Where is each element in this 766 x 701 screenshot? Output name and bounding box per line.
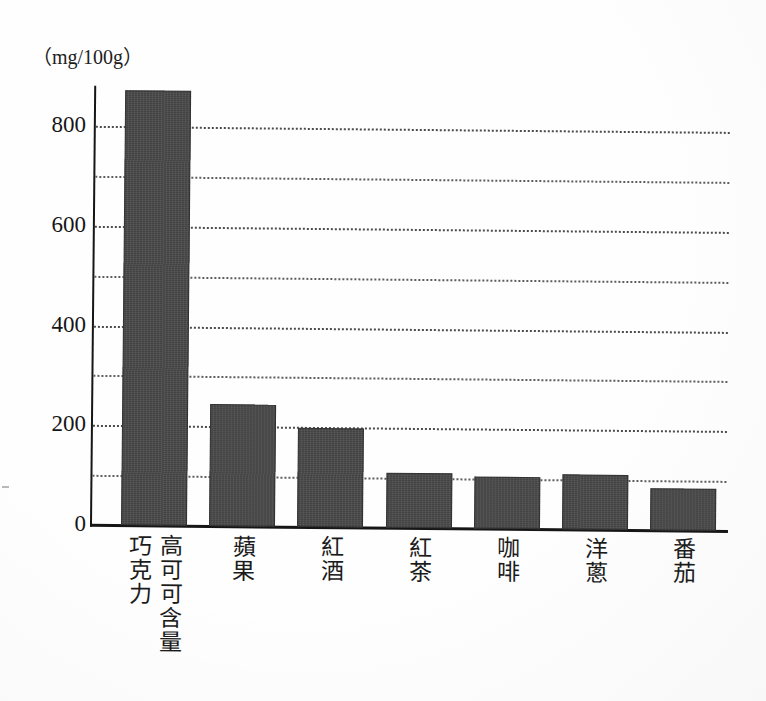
x-axis-tick-labels: 巧克力高可可含量蘋果紅酒紅茶咖啡洋蔥番茄	[0, 0, 766, 701]
x-tick-label-5-line-0: 洋蔥	[582, 537, 607, 585]
x-tick-label-6-line-0: 番茄	[670, 537, 695, 585]
x-tick-label-4-line-0: 咖啡	[494, 536, 519, 584]
x-tick-label-0-line-1: 巧克力	[126, 534, 151, 606]
x-tick-label-1-line-0: 蘋果	[230, 535, 255, 583]
x-tick-label-2-line-0: 紅酒	[318, 535, 343, 583]
bar-chart: （mg/100g） 0200400600800 巧克力高可可含量蘋果紅酒紅茶咖啡…	[0, 0, 766, 701]
x-tick-label-6: 番茄	[608, 537, 758, 586]
x-tick-label-3-line-0: 紅茶	[406, 536, 431, 584]
